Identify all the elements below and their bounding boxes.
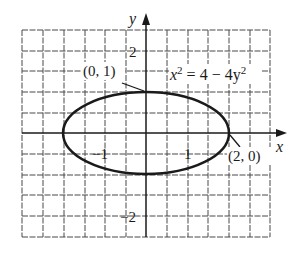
x-tick-label-neg1: −1 [92,146,108,162]
ellipse-graph: y x 2 −2 −1 1 (0, 1) (2, 0) x2 = 4 − 4y2 [0,0,298,256]
y-axis-arrow-icon [142,13,150,25]
annotation-2-0: (2, 0) [228,148,261,165]
axes [22,20,280,237]
x-axis-label: x [275,138,283,155]
y-tick-label-2: 2 [129,44,137,60]
leader-line-0-1 [122,83,144,91]
y-tick-label-neg2: −2 [120,209,136,225]
x-axis-arrow-icon [276,129,287,137]
x-tick-label-1: 1 [184,146,192,162]
y-axis-label: y [127,10,137,28]
leader-line-2-0 [230,135,240,147]
annotation-0-1: (0, 1) [83,63,116,80]
